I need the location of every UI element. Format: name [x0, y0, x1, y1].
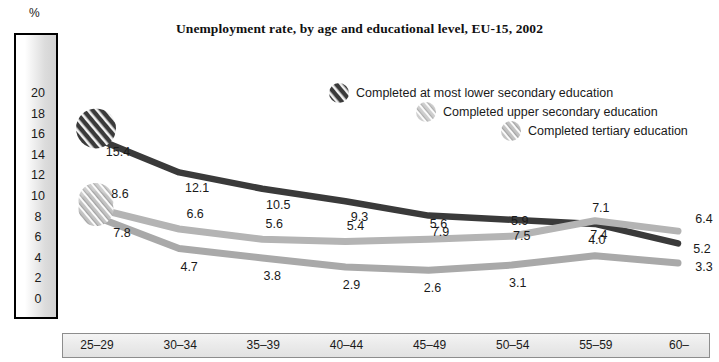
dark-hatched-circle-icon — [328, 82, 350, 104]
data-point-label: 5.9 — [511, 214, 528, 228]
legend-item[interactable]: Completed tertiary education — [500, 120, 688, 142]
data-point-label: 3.8 — [264, 269, 281, 283]
x-axis-tick: 55–59 — [579, 334, 612, 357]
y-axis-tick: 6 — [16, 230, 60, 244]
data-point-label: 4.7 — [180, 260, 197, 274]
data-point-label: 12.1 — [185, 181, 209, 195]
data-point-label: 3.1 — [509, 276, 526, 290]
data-point-label: 3.3 — [695, 260, 712, 274]
data-point-label: 6.6 — [186, 207, 203, 221]
data-point-label: 2.6 — [424, 281, 441, 295]
y-axis-unit-label: % — [29, 6, 40, 20]
data-point-label: 15.4 — [106, 145, 130, 159]
x-axis-tick: 50–54 — [496, 334, 529, 357]
data-point-label: 5.6 — [430, 217, 447, 231]
data-point-label: 7.1 — [592, 201, 609, 215]
data-point-label: 5.2 — [693, 242, 710, 256]
x-axis-tick: 60–64 — [664, 334, 694, 357]
legend-label: Completed at most lower secondary educat… — [356, 86, 613, 100]
y-axis-tick: 14 — [16, 148, 60, 162]
data-point-label: 5.6 — [266, 217, 283, 231]
data-point-label: 4.0 — [588, 233, 605, 247]
y-axis-tick: 0 — [16, 292, 60, 306]
x-axis: 25–2930–3435–3940–4445–4950–5455–5960–64 — [62, 333, 710, 358]
x-axis-tick: 35–39 — [247, 334, 280, 357]
y-axis-tick: 20 — [16, 86, 60, 100]
mid-hatched-circle-icon — [79, 191, 114, 226]
x-axis-tick: 25–29 — [80, 334, 113, 357]
legend-label: Completed tertiary education — [528, 124, 688, 138]
chart-figure: Unemployment rate, by age and educationa… — [0, 0, 719, 362]
x-axis-tick: 45–49 — [413, 334, 446, 357]
legend-label: Completed upper secondary education — [443, 105, 658, 119]
data-point-label: 7.5 — [513, 229, 530, 243]
data-point-label: 2.9 — [343, 278, 360, 292]
data-point-label: 5.4 — [347, 219, 364, 233]
y-axis-tick: 8 — [16, 210, 60, 224]
data-point-label: 8.6 — [111, 187, 128, 201]
data-point-label: 10.5 — [266, 198, 290, 212]
y-axis-tick: 18 — [16, 107, 60, 121]
dark-hatched-circle-icon — [76, 108, 116, 148]
mid-hatched-circle-icon — [500, 120, 522, 142]
x-axis-tick: 40–44 — [330, 334, 363, 357]
series-canvas — [58, 33, 713, 319]
y-axis-tick: 4 — [16, 251, 60, 265]
y-axis-tick: 12 — [16, 168, 60, 182]
y-axis-tick: 16 — [16, 127, 60, 141]
y-axis: 20181614121086420 — [14, 33, 58, 319]
x-axis-tick: 30–34 — [163, 334, 196, 357]
data-point-label: 6.4 — [695, 212, 712, 226]
y-axis-tick: 2 — [16, 271, 60, 285]
light-hatched-circle-icon — [415, 101, 437, 123]
data-point-label: 7.8 — [113, 226, 130, 240]
plot-area: 15.412.110.59.37.97.57.15.28.66.65.65.45… — [58, 33, 713, 319]
y-axis-tick: 10 — [16, 189, 60, 203]
